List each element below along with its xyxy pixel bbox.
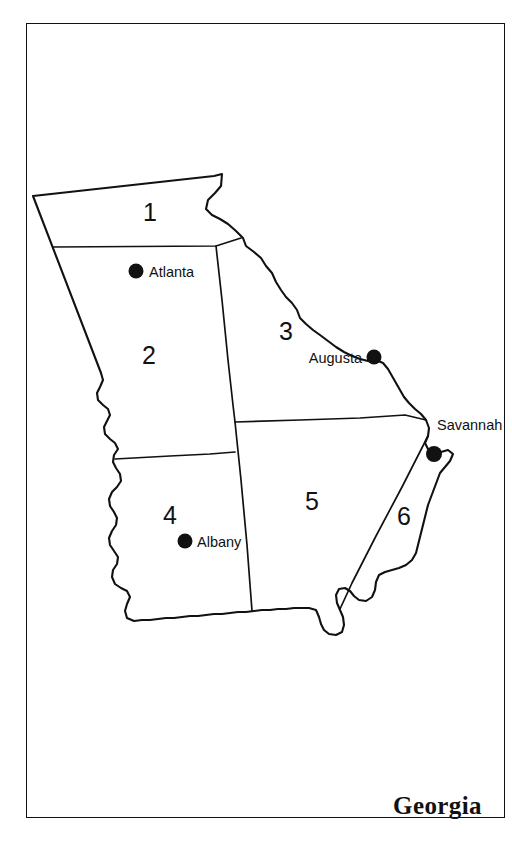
region-number-6: 6: [397, 502, 411, 530]
region-number-2: 2: [142, 341, 156, 369]
region-number-1: 1: [143, 198, 157, 226]
city-label-savannah: Savannah: [437, 417, 502, 433]
page-canvas: 1 2 3 4 5 6 Atlanta Augusta Savannah Alb…: [0, 0, 512, 864]
region-number-5: 5: [305, 487, 319, 515]
city-label-augusta: Augusta: [309, 350, 363, 366]
georgia-map: 1 2 3 4 5 6 Atlanta Augusta Savannah Alb…: [0, 0, 512, 864]
region-number-4: 4: [163, 501, 177, 529]
city-dot-savannah: [426, 446, 442, 462]
city-dot-atlanta: [129, 264, 144, 279]
city-dot-augusta: [367, 350, 382, 365]
state-outline-georgia: [33, 174, 453, 635]
region-number-3: 3: [279, 317, 293, 345]
city-label-albany: Albany: [197, 534, 242, 550]
city-label-atlanta: Atlanta: [149, 264, 195, 280]
map-title: Georgia: [393, 792, 482, 820]
city-dot-albany: [178, 534, 193, 549]
